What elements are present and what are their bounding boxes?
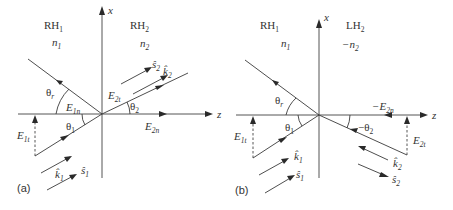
s2-label: ŝ2 <box>152 58 160 73</box>
s1-label: ŝ1 <box>296 168 304 183</box>
x-axis-label: x <box>323 11 329 23</box>
e2t-arrow-icon <box>404 116 410 124</box>
incident-ray-arrow-icon <box>278 137 287 143</box>
theta-1-arc <box>298 115 302 126</box>
k1-arrow-icon <box>64 156 72 162</box>
theta-1-label: θ1 <box>285 121 294 136</box>
theta-r-arc <box>286 98 296 115</box>
e2n-arrow-icon <box>159 111 167 117</box>
medium1-index: n1 <box>52 36 61 51</box>
panel-a: x z RH1 n1 RH2 n2 θr <box>16 4 222 194</box>
panel-a-label: (a) <box>17 182 30 194</box>
z-axis-arrow-icon <box>420 112 428 118</box>
e1t-label: E1t <box>233 130 247 145</box>
theta-r-label: θr <box>46 86 54 101</box>
e2t-label: E2t <box>412 134 426 149</box>
panel-b-label: (b) <box>235 184 248 196</box>
theta-1-label: θ1 <box>66 120 75 135</box>
k1-vector <box>259 160 286 175</box>
s1-label: ŝ1 <box>81 164 89 179</box>
medium2-index: n2 <box>140 37 150 52</box>
k2-arrow-icon <box>358 146 366 151</box>
x-axis-arrow-icon <box>316 19 322 28</box>
medium2-index: −n2 <box>342 38 359 53</box>
medium2-label: LH2 <box>346 19 365 34</box>
transmitted-ray <box>102 73 188 114</box>
x-axis-arrow-icon <box>99 6 105 15</box>
k1-label: k̂1 <box>294 150 303 165</box>
z-axis-label: z <box>431 109 437 121</box>
medium1-label: RH1 <box>44 19 63 34</box>
s1-vector <box>265 177 292 193</box>
s2-arrow-icon <box>379 172 389 177</box>
e1t-arrow-icon <box>250 116 256 124</box>
x-axis-label: x <box>107 4 113 16</box>
s1-arrow-icon <box>287 175 295 181</box>
k1-arrow-icon <box>281 158 289 164</box>
s1-arrow-icon <box>69 174 77 180</box>
e2t-label: E2t <box>107 89 121 104</box>
k1-label: k̂1 <box>55 168 64 183</box>
k2-label: k̂2 <box>393 157 402 172</box>
reflected-ray <box>28 59 102 114</box>
e1t-arrow-icon <box>32 115 38 123</box>
theta-1-arc <box>82 114 85 125</box>
transmitted-ray-arrow-icon <box>155 85 164 90</box>
s2-label: ŝ2 <box>392 173 400 188</box>
s2-vector <box>121 69 149 84</box>
e2n-label: E2n <box>144 120 159 135</box>
incident-ray-arrow-icon <box>60 135 69 141</box>
z-axis-label: z <box>216 108 222 120</box>
refraction-diagram: x z RH1 n1 RH2 n2 θr <box>0 0 453 210</box>
medium1-label: RH1 <box>260 19 279 34</box>
theta-2-arc <box>347 115 350 128</box>
medium2-label: RH2 <box>130 19 149 34</box>
e1t-label: E1t <box>16 129 30 144</box>
s2-arrow-icon <box>144 67 152 73</box>
medium1-index: n1 <box>281 37 290 52</box>
e2n-label: −E2n <box>372 100 394 115</box>
z-axis-arrow-icon <box>205 111 213 117</box>
reflected-ray-arrow-icon <box>272 80 279 86</box>
theta-2-label: θ2 <box>130 100 139 115</box>
panel-b: x z RH1 n1 LH2 <box>233 11 437 196</box>
theta-r-label: θr <box>275 94 283 109</box>
